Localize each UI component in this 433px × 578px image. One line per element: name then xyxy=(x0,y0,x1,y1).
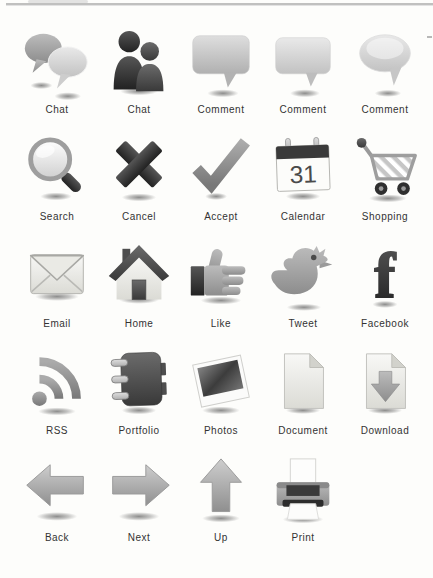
scan-artifact xyxy=(427,36,432,38)
arrow-up-icon xyxy=(183,455,259,533)
icon-grid: Chat Chat xyxy=(16,27,426,562)
icon-tile-document: Document xyxy=(262,348,344,455)
icon-label: Facebook xyxy=(361,319,409,329)
rss-icon xyxy=(19,348,95,426)
icon-tile-shopping: Shopping xyxy=(344,134,426,241)
icon-label: Search xyxy=(40,212,75,222)
icon-label: Chat xyxy=(127,105,150,115)
icon-tile-comment-square-alt: Comment xyxy=(262,27,344,134)
facebook-f-glyph: f xyxy=(375,241,397,310)
icon-label: Comment xyxy=(198,105,245,115)
icon-tile-print: Print xyxy=(262,455,344,562)
icon-tile-back: Back xyxy=(16,455,98,562)
icon-label: Print xyxy=(291,533,314,543)
icon-tile-download: Download xyxy=(344,348,426,455)
icon-tile-cancel: Cancel xyxy=(98,134,180,241)
chat-people-icon xyxy=(101,27,177,105)
icon-tile-tweet: Tweet xyxy=(262,241,344,348)
icon-label: Photos xyxy=(204,426,238,436)
icon-label: Shopping xyxy=(362,212,408,222)
icon-tile-rss: RSS xyxy=(16,348,98,455)
magnifier-icon xyxy=(19,134,95,212)
document-icon xyxy=(265,348,341,426)
icon-tile-comment-square: Comment xyxy=(180,27,262,134)
icon-label: Like xyxy=(211,319,231,329)
icon-label: Cancel xyxy=(122,212,156,222)
thumbs-up-icon xyxy=(183,241,259,319)
icon-label: Accept xyxy=(204,212,238,222)
icon-sheet-page: Chat Chat xyxy=(0,0,433,578)
checkmark-icon xyxy=(183,134,259,212)
icon-label: Tweet xyxy=(288,319,317,329)
icon-label: Next xyxy=(128,533,151,543)
arrow-right-icon xyxy=(101,455,177,533)
comment-bubble-round-icon xyxy=(347,27,423,105)
icon-tile-portfolio: Portfolio xyxy=(98,348,180,455)
icon-tile-calendar: 31 Calendar xyxy=(262,134,344,241)
icon-tile-email: Email xyxy=(16,241,98,348)
comment-bubble-square-icon xyxy=(183,27,259,105)
calendar-day-number: 31 xyxy=(289,160,317,188)
icon-label: Email xyxy=(43,319,71,329)
binder-icon xyxy=(101,348,177,426)
icon-label: Home xyxy=(125,319,154,329)
twitter-bird-icon xyxy=(265,241,341,319)
house-icon xyxy=(101,241,177,319)
icon-tile-home: Home xyxy=(98,241,180,348)
scan-edge-highlight xyxy=(6,5,433,6)
icon-label: Comment xyxy=(362,105,409,115)
icon-label: RSS xyxy=(46,426,68,436)
comment-bubble-square-alt-icon xyxy=(265,27,341,105)
chat-bubbles-icon xyxy=(19,27,95,105)
arrow-left-icon xyxy=(19,455,95,533)
icon-label: Back xyxy=(45,533,69,543)
icon-tile-facebook: f Facebook xyxy=(344,241,426,348)
icon-label: Chat xyxy=(45,105,68,115)
download-icon xyxy=(347,348,423,426)
icon-label: Up xyxy=(214,533,228,543)
icon-tile-next: Next xyxy=(98,455,180,562)
icon-label: Comment xyxy=(280,105,327,115)
shopping-cart-icon xyxy=(347,134,423,212)
printer-icon xyxy=(265,455,341,533)
icon-tile-accept: Accept xyxy=(180,134,262,241)
icon-label: Document xyxy=(278,426,328,436)
icon-label: Download xyxy=(361,426,409,436)
icon-tile-chat-people: Chat xyxy=(98,27,180,134)
photo-icon xyxy=(183,348,259,426)
scan-artifact xyxy=(28,0,88,3)
icon-tile-comment-round: Comment xyxy=(344,27,426,134)
facebook-f-icon: f xyxy=(347,241,423,319)
icon-label: Portfolio xyxy=(118,426,159,436)
x-icon xyxy=(101,134,177,212)
icon-label: Calendar xyxy=(281,212,326,222)
icon-tile-up: Up xyxy=(180,455,262,562)
icon-tile-chat-bubbles: Chat xyxy=(16,27,98,134)
icon-tile-like: Like xyxy=(180,241,262,348)
calendar-icon: 31 xyxy=(265,134,341,212)
icon-tile-search: Search xyxy=(16,134,98,241)
icon-tile-photos: Photos xyxy=(180,348,262,455)
envelope-icon xyxy=(19,241,95,319)
